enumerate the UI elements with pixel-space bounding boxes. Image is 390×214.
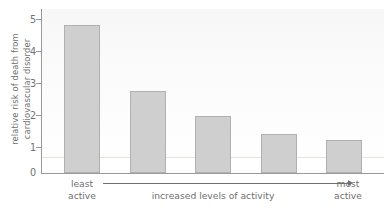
x-axis-annotation: least active increased levels of activit… <box>41 178 384 212</box>
y-tick-label-0: 0 <box>22 168 36 178</box>
y-axis-tick-labels: 5 4 3 2 1 0 <box>16 0 36 214</box>
bar-5 <box>326 140 362 173</box>
x-axis-left-label: least active <box>58 178 106 201</box>
bar-4 <box>261 134 297 173</box>
plot-area <box>42 9 384 173</box>
x-axis-line <box>41 173 384 174</box>
y-tick-label-5: 5 <box>22 15 36 25</box>
x-axis-title: increased levels of activity <box>113 190 313 202</box>
y-tick-label-4: 4 <box>22 47 36 57</box>
x-axis-right-label: most active <box>324 178 372 201</box>
y-tick-label-1: 1 <box>22 143 36 153</box>
bar-3 <box>195 116 231 173</box>
y-tick-label-3: 3 <box>22 79 36 89</box>
bar-2 <box>130 91 166 173</box>
bar-1 <box>64 25 100 173</box>
activity-arrow-line <box>103 183 350 184</box>
y-tick-label-2: 2 <box>22 111 36 121</box>
bar-chart-figure: relative risk of death from cardiovascul… <box>0 0 390 214</box>
